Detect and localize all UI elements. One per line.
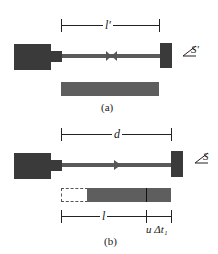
dim-l-label: l bbox=[100, 210, 107, 222]
frame-label-b: S bbox=[203, 151, 209, 162]
frame-label-a: S′ bbox=[191, 44, 199, 55]
emitter-neck-a bbox=[51, 51, 62, 62]
dim-udt-line bbox=[147, 216, 171, 217]
bar-b bbox=[87, 188, 171, 202]
bar-b-divider bbox=[146, 188, 147, 202]
caption-b: (b) bbox=[104, 236, 117, 247]
mirror-block-b bbox=[171, 151, 183, 177]
dim-b-label: d bbox=[112, 128, 122, 140]
bowtie-marker-icon bbox=[106, 51, 117, 61]
caption-a: (a) bbox=[101, 102, 113, 113]
arrowhead-marker-icon bbox=[114, 160, 121, 170]
dim-udt-right-tick bbox=[171, 210, 172, 223]
dim-udt-label: u Δt₁ bbox=[146, 223, 168, 235]
mirror-block-a bbox=[160, 43, 172, 68]
bar-a bbox=[61, 82, 159, 96]
emitter-neck-b bbox=[51, 160, 62, 171]
emitter-block-a bbox=[14, 44, 51, 70]
dashed-original-bar bbox=[61, 188, 88, 202]
emitter-block-b bbox=[14, 153, 51, 179]
dim-a-label: l′ bbox=[103, 19, 113, 31]
